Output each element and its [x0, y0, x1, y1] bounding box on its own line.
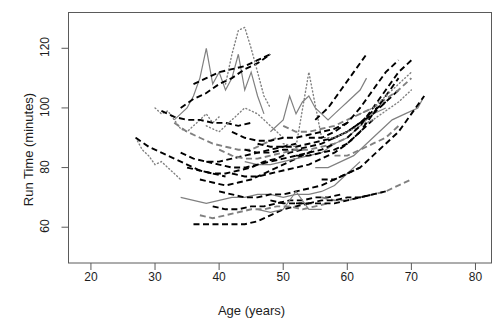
x-tick-label: 50: [263, 270, 303, 284]
run-time-vs-age-chart: Age (years) Run Time (minutes) 203040506…: [0, 0, 503, 333]
y-axis-title: Run Time (minutes): [21, 60, 36, 240]
y-tick-label: 100: [38, 90, 52, 124]
x-tick-label: 20: [71, 270, 111, 284]
y-tick-label: 120: [38, 30, 52, 64]
x-tick-label: 30: [135, 270, 175, 284]
x-tick-label: 60: [327, 270, 367, 284]
x-tick-label: 70: [391, 270, 431, 284]
x-tick-label: 40: [199, 270, 239, 284]
x-axis-title: Age (years): [0, 303, 503, 318]
y-tick-label: 80: [38, 150, 52, 184]
x-tick-label: 80: [455, 270, 495, 284]
y-tick-label: 60: [38, 209, 52, 243]
